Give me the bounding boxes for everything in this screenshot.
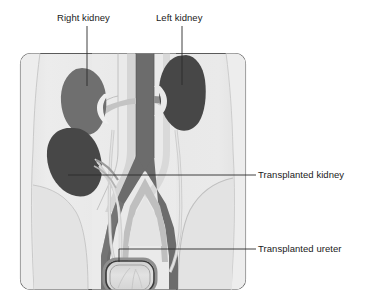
label-transplanted-kidney: Transplanted kidney	[258, 169, 344, 181]
bladder	[104, 259, 156, 293]
label-right-kidney: Right kidney	[57, 12, 110, 24]
label-transplanted-ureter: Transplanted ureter	[258, 243, 342, 255]
label-left-kidney: Left kidney	[156, 12, 203, 24]
abdominal-aorta	[136, 53, 154, 172]
kidney-transplant-diagram	[0, 0, 370, 303]
